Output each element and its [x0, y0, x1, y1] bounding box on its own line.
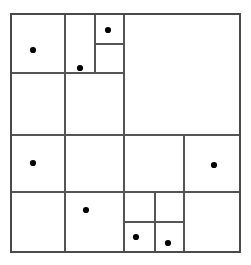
segments-layer	[11, 14, 240, 252]
data-point	[165, 240, 171, 246]
data-point	[211, 162, 217, 168]
data-point	[105, 27, 111, 33]
data-point	[30, 160, 36, 166]
outer-rect-layer	[11, 14, 240, 252]
data-point	[77, 65, 83, 71]
partition-diagram	[0, 0, 251, 265]
outer-boundary-rect	[11, 14, 240, 252]
data-point	[133, 234, 139, 240]
data-point	[30, 47, 36, 53]
data-point	[83, 207, 89, 213]
partition-figure	[0, 0, 251, 265]
